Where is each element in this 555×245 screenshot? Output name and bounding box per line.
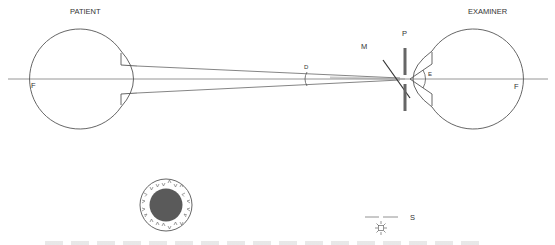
patient-iris-lower (121, 93, 137, 105)
divergence-angle-label: D (304, 64, 309, 70)
examiner-angle-label: E (428, 71, 432, 77)
pupil-reflex-figure (140, 179, 192, 231)
cropped-caption-strip (45, 241, 485, 245)
mirror-label: M (361, 42, 367, 51)
ray-upper (137, 66, 400, 78)
examiner-fundus-label: F (514, 82, 519, 91)
source-label: S (410, 213, 415, 222)
pinhole-plate-lower (404, 84, 407, 111)
pinhole-label: P (402, 29, 407, 38)
pinhole-plate-upper (404, 48, 407, 75)
light-source: S (365, 213, 415, 235)
patient-fundus-label: F (31, 81, 36, 90)
patient-label: PATIENT (70, 7, 101, 16)
examiner-label: EXAMINER (468, 7, 508, 16)
ray-lower (137, 80, 400, 93)
pupil-dark-disc (150, 189, 183, 222)
patient-iris-upper (121, 53, 137, 66)
sun-icon (375, 221, 387, 235)
ophthalmoscope-diagram: PATIENT EXAMINER F F M P E D S (0, 0, 555, 245)
